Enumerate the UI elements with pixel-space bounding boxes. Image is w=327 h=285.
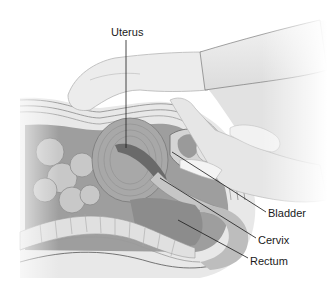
label-cervix: Cervix xyxy=(258,234,289,246)
label-uterus: Uterus xyxy=(111,26,143,38)
pelvic-exam-diagram: Uterus Bladder Cervix Rectum xyxy=(0,0,327,285)
label-bladder: Bladder xyxy=(268,207,306,219)
label-rectum: Rectum xyxy=(250,255,288,267)
uterus-organ xyxy=(92,118,168,202)
